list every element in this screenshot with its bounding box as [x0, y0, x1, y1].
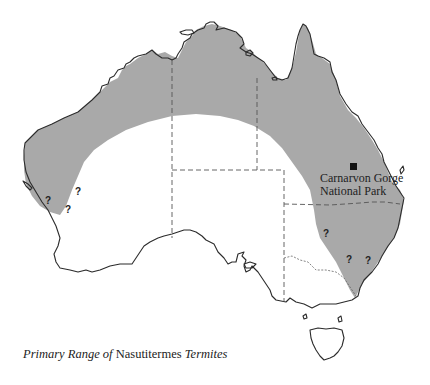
map-caption: Primary Range of Nasutitermes Termites [23, 347, 227, 362]
tasmania-coastline [310, 328, 344, 360]
uncertain-marker: ? [365, 256, 371, 266]
caption-part1: Primary Range of [23, 347, 113, 361]
island-flinders [338, 316, 342, 322]
island-melville [180, 30, 194, 35]
island-kangaroo [244, 262, 256, 268]
location-label-line2: National Park [320, 185, 403, 198]
island-king [303, 314, 307, 319]
caption-part3: Termites [185, 347, 228, 361]
uncertain-marker: ? [65, 205, 71, 215]
uncertain-marker: ? [346, 255, 352, 265]
uncertain-marker: ? [45, 196, 51, 206]
uncertain-marker: ? [323, 229, 329, 239]
caption-genus: Nasutitermes [116, 347, 182, 361]
uncertain-marker: ? [75, 187, 81, 197]
location-marker-icon [350, 163, 357, 170]
location-label: Carnarvon Gorge National Park [320, 172, 403, 198]
